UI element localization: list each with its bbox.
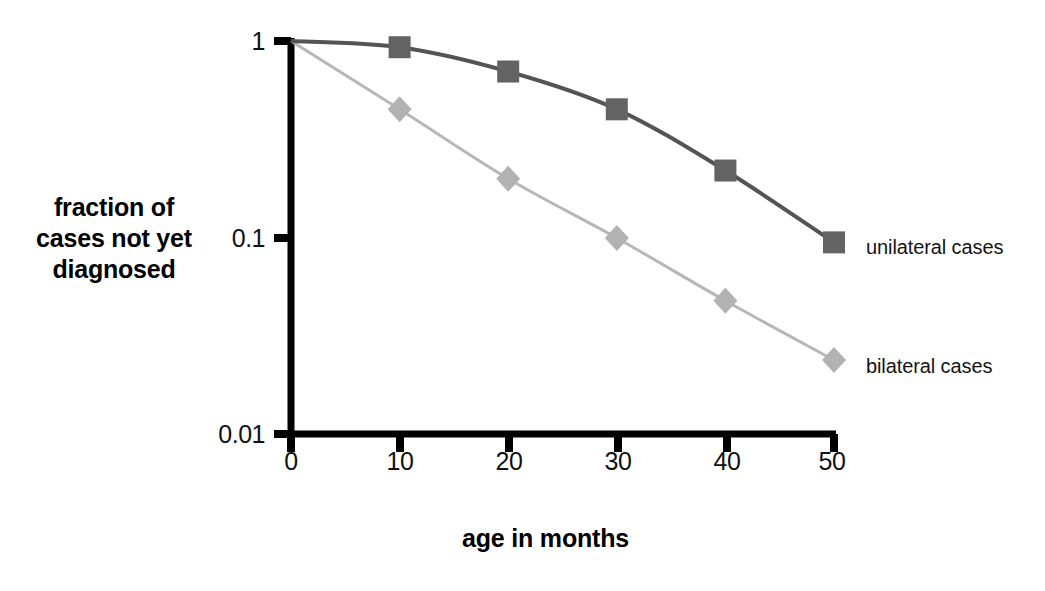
x-axis-title-text: age in months <box>462 524 629 552</box>
chart-figure: fraction of cases not yet diagnosed 1 0.… <box>0 0 1045 591</box>
data-point-marker <box>714 160 736 182</box>
series-label-unilateral: unilateral cases <box>866 236 1003 259</box>
plot-area <box>0 0 1045 591</box>
data-point-marker <box>388 96 412 122</box>
data-point-marker <box>497 61 519 83</box>
data-point-marker <box>823 231 845 253</box>
data-point-marker <box>389 36 411 58</box>
data-point-marker <box>822 347 846 373</box>
series-markers-bilateral <box>388 96 846 373</box>
x-axis-title: age in months <box>0 524 1045 553</box>
series-label-bilateral: bilateral cases <box>866 355 992 378</box>
data-point-marker <box>605 225 629 251</box>
data-point-marker <box>606 98 628 120</box>
series-markers-unilateral <box>389 36 845 253</box>
series-line-unilateral <box>291 41 834 242</box>
data-point-marker <box>496 166 520 192</box>
data-point-marker <box>713 288 737 314</box>
